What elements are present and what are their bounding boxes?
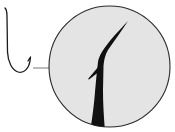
fishhook-diagram (0, 0, 175, 132)
small-hook-icon (5, 8, 31, 72)
magnifier-circle (49, 6, 170, 127)
